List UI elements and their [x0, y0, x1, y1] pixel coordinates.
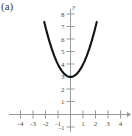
x-tick-label: 1 — [81, 120, 85, 128]
y-tick-label: 4 — [61, 61, 65, 69]
y-tick-label: 2 — [61, 86, 65, 94]
x-tick-label: 3 — [106, 120, 110, 128]
x-tick-label: -4 — [18, 120, 24, 128]
y-tick-label: -1 — [59, 124, 65, 132]
y-tick-label: 8 — [61, 11, 65, 19]
y-tick-label: 1 — [61, 98, 65, 106]
y-tick-label: 6 — [61, 36, 65, 44]
x-tick-label: 4 — [119, 120, 123, 128]
x-axis-arrow-icon — [127, 112, 131, 117]
parabola-plot: -4 -3 -2 -1 1 2 3 4 8 7 6 5 4 3 2 1 -1 y — [0, 0, 132, 136]
x-tick-label: -3 — [30, 120, 36, 128]
x-tick-label: 2 — [94, 120, 98, 128]
figure-panel: (a) — [0, 0, 132, 136]
panel-label: (a) — [1, 0, 13, 12]
x-tick-label: -2 — [43, 120, 49, 128]
y-tick-label: 5 — [61, 48, 65, 56]
y-tick-label: 7 — [61, 23, 65, 31]
y-axis-label: y — [72, 3, 77, 11]
